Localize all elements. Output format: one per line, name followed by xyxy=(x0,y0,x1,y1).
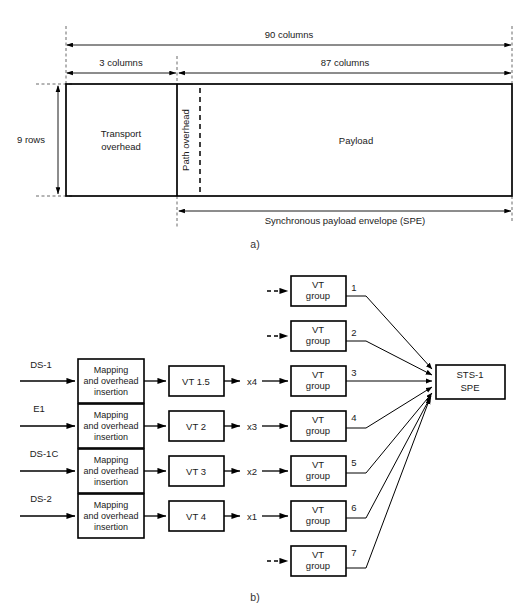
tributary-source-ds2: DS-2 xyxy=(30,493,52,504)
label-3-columns: 3 columns xyxy=(99,57,143,68)
vt-group-4-line1: VT xyxy=(312,414,324,425)
sts1-spe-line2: SPE xyxy=(460,382,479,393)
mapping-box-ds2-line1: Mapping xyxy=(94,500,129,510)
transport-overhead-label-line1: Transport xyxy=(101,128,142,139)
vt-group-4-number: 4 xyxy=(351,412,356,423)
vt-group-2-line1: VT xyxy=(312,324,324,335)
convergence-line-2 xyxy=(346,341,432,375)
label-spe: Synchronous payload envelope (SPE) xyxy=(265,215,426,226)
mapping-box-e1-line2: and overhead xyxy=(83,421,138,431)
tributary-source-ds1: DS-1 xyxy=(30,359,52,370)
vt-group-5-line2: group xyxy=(306,470,330,481)
label-90-columns: 90 columns xyxy=(265,29,314,40)
mapping-box-ds1c-line3: insertion xyxy=(94,477,128,487)
multiplier-x2: x2 xyxy=(247,466,257,477)
vt-group-5-line1: VT xyxy=(312,459,324,470)
mapping-box-ds1c-line1: Mapping xyxy=(94,455,129,465)
vt-group-3-line1: VT xyxy=(312,369,324,380)
vt-group-6-number: 6 xyxy=(351,502,356,513)
convergence-line-1 xyxy=(346,296,432,369)
vt-group-5-number: 5 xyxy=(351,457,356,468)
sonet-frame-diagram: 90 columns 3 columns 87 columns 9 rows T… xyxy=(0,0,529,611)
vt-group-7-number: 7 xyxy=(351,547,356,558)
tributary-source-ds1c: DS-1C xyxy=(30,448,59,459)
part-a-label: a) xyxy=(250,238,259,250)
vt-group-7-line1: VT xyxy=(312,549,324,560)
vt-group-4-line2: group xyxy=(306,425,330,436)
payload-label: Payload xyxy=(339,135,373,146)
vt-group-1-number: 1 xyxy=(351,282,356,293)
multiplier-x1: x1 xyxy=(247,511,257,522)
tributary-source-e1: E1 xyxy=(33,403,45,414)
multiplier-x4: x4 xyxy=(247,376,257,387)
vt-group-6-line1: VT xyxy=(312,504,324,515)
vt-group-3-line2: group xyxy=(306,380,330,391)
part-b-label: b) xyxy=(250,591,259,603)
mapping-box-ds1-line1: Mapping xyxy=(94,365,129,375)
convergence-line-5 xyxy=(346,393,432,473)
mapping-box-e1-line1: Mapping xyxy=(94,410,129,420)
mapping-box-ds1-line3: insertion xyxy=(94,387,128,397)
vt-box-vt3-label: VT 3 xyxy=(186,466,206,477)
convergence-line-7 xyxy=(346,398,430,568)
path-overhead-label: Path overhead xyxy=(180,109,191,171)
vt-group-1-line2: group xyxy=(306,290,330,301)
mapping-box-ds2-line2: and overhead xyxy=(83,511,138,521)
vt-group-2-number: 2 xyxy=(351,327,356,338)
frame-rectangle xyxy=(66,84,512,196)
vt-box-vt2-label: VT 2 xyxy=(186,421,206,432)
figure-canvas: 90 columns 3 columns 87 columns 9 rows T… xyxy=(0,0,529,611)
mapping-box-ds1-line2: and overhead xyxy=(83,376,138,386)
mapping-box-ds2-line3: insertion xyxy=(94,522,128,532)
vt-group-1-line1: VT xyxy=(312,279,324,290)
mapping-box-ds1c-line2: and overhead xyxy=(83,466,138,476)
mapping-box-e1-line3: insertion xyxy=(94,432,128,442)
multiplier-x3: x3 xyxy=(247,421,257,432)
vt-group-7-line2: group xyxy=(306,560,330,571)
transport-overhead-label-line2: overhead xyxy=(101,141,141,152)
vt-box-vt4-label: VT 4 xyxy=(186,511,206,522)
vt-group-2-line2: group xyxy=(306,335,330,346)
label-9-rows: 9 rows xyxy=(17,134,45,145)
sts1-spe-line1: STS-1 xyxy=(457,369,484,380)
vt-box-vt15-label: VT 1.5 xyxy=(182,376,210,387)
vt-group-6-line2: group xyxy=(306,515,330,526)
convergence-line-4 xyxy=(346,387,432,428)
vt-group-3-number: 3 xyxy=(351,367,356,378)
label-87-columns: 87 columns xyxy=(321,57,370,68)
